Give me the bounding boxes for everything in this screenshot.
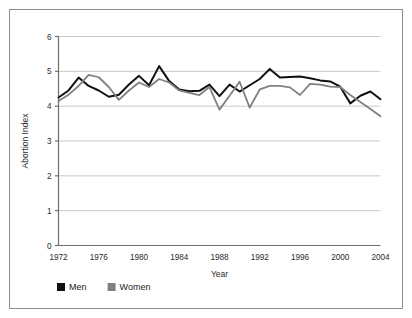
x-tick-label: 1984 [170, 253, 189, 262]
legend-label-men: Men [69, 282, 87, 292]
y-axis-tick-labels: 0123456 [47, 33, 52, 251]
y-tick-label: 6 [47, 33, 52, 42]
x-tick-label: 2000 [331, 253, 350, 262]
x-axis-title: Year [211, 269, 228, 279]
legend-swatch-men [57, 283, 65, 291]
x-tick-label: 1980 [130, 253, 149, 262]
x-tick-label: 1972 [49, 253, 68, 262]
gridlines [59, 37, 381, 246]
x-axis-tick-labels: 197219761980198419881992199620002004 [49, 253, 390, 262]
x-tick-label: 1976 [90, 253, 109, 262]
data-series-group [59, 66, 381, 116]
x-tick-label: 1992 [251, 253, 270, 262]
chart-legend: MenWomen [57, 282, 150, 292]
y-tick-label: 0 [47, 242, 52, 251]
y-tick-label: 1 [47, 207, 52, 216]
x-tick-label: 2004 [371, 253, 390, 262]
x-tick-label: 1996 [291, 253, 310, 262]
x-tick-label: 1988 [210, 253, 229, 262]
legend-swatch-women [108, 283, 116, 291]
y-tick-label: 3 [47, 137, 52, 146]
line-chart: 0123456 19721976198019841988199219962000… [0, 0, 412, 318]
y-axis-title: Abortion Index [20, 113, 30, 169]
legend-label-women: Women [120, 282, 151, 292]
y-tick-label: 4 [47, 102, 52, 111]
y-tick-label: 2 [47, 172, 52, 181]
y-tick-label: 5 [47, 67, 52, 76]
chart-figure: 0123456 19721976198019841988199219962000… [0, 0, 412, 318]
